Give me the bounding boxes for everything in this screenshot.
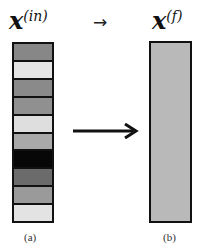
vector-cell [14, 205, 52, 221]
vector-cell [14, 187, 52, 203]
output-vector-column [149, 41, 192, 223]
input-vector-column [12, 42, 54, 223]
input-vector-symbol: x [9, 6, 23, 35]
output-vector-symbol: x [152, 6, 166, 35]
caption-a: (a) [24, 231, 36, 243]
output-vector-superscript: (f) [166, 8, 182, 24]
input-vector-title: x(in) [9, 6, 48, 35]
vector-cell [14, 151, 52, 167]
vector-cell [14, 98, 52, 114]
output-vector-title: x(f) [152, 6, 182, 35]
vector-cell [14, 134, 52, 150]
vector-cell [14, 44, 52, 60]
transform-arrow-icon [73, 123, 139, 139]
mapping-arrow-icon: → [93, 14, 107, 31]
input-vector-superscript: (in) [23, 8, 47, 24]
vector-cell [14, 169, 52, 185]
vector-cell [14, 80, 52, 96]
vector-cell [14, 116, 52, 132]
vector-cell [14, 62, 52, 78]
caption-b: (b) [163, 231, 176, 243]
